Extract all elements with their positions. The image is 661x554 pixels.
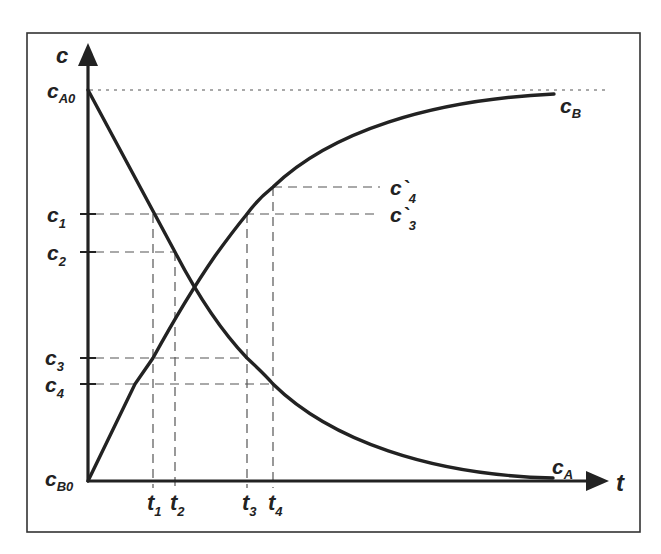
curve-ca (88, 90, 553, 478)
x-label-t1: t1 (147, 490, 162, 519)
y-axis-arrow-icon (78, 43, 98, 66)
y-label-c1: c1 (47, 203, 66, 231)
x-axis-arrow-icon (586, 471, 609, 491)
x-label-t2: t2 (170, 490, 185, 519)
y-label-c2: c2 (47, 241, 67, 269)
y-label-c4: c4 (45, 373, 65, 401)
y-axis-label: c (56, 43, 68, 68)
diagram-frame (27, 33, 640, 532)
concentration-time-diagram: c t cA0 c1 c2 c3 c4 cB0 t1 t2 t3 t4 c`4 … (0, 0, 661, 554)
y-label-cb0: cB0 (45, 467, 74, 494)
x-axis-label: t (616, 469, 625, 496)
y-label-c3: c3 (45, 346, 65, 374)
label-c-prime-4: c`4 (390, 176, 417, 206)
curve-cb (88, 94, 554, 481)
y-label-ca0: cA0 (47, 79, 76, 106)
label-c-prime-3: c`3 (390, 203, 417, 233)
x-label-t3: t3 (242, 490, 257, 519)
x-label-t4: t4 (268, 490, 283, 519)
label-curve-cb: cB (560, 94, 581, 121)
label-curve-ca: cA (552, 455, 573, 482)
